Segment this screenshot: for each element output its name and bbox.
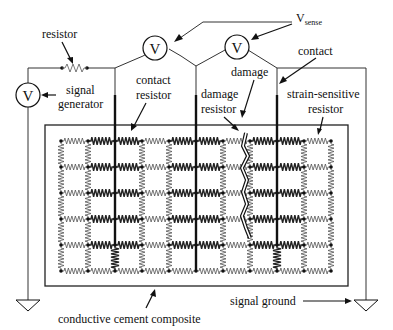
grid-node: [329, 139, 333, 143]
horizontal-resistor: [61, 164, 88, 170]
horizontal-resistor: [304, 268, 331, 274]
label-contact: contact: [298, 44, 333, 58]
grid-node: [140, 269, 144, 273]
grid-node: [302, 165, 306, 169]
horizontal-resistor: [304, 190, 331, 196]
contact-resistor: [115, 241, 142, 249]
grid-node: [59, 269, 63, 273]
vertical-resistor: [301, 141, 307, 167]
vertical-resistor: [328, 219, 334, 245]
vertical-resistor: [166, 167, 172, 193]
vertical-resistor: [301, 167, 307, 193]
contact-resistor: [277, 215, 304, 223]
label-ground: signal ground: [230, 294, 296, 308]
horizontal-resistor: [142, 190, 169, 196]
horizontal-resistor: [223, 242, 250, 248]
contact-resistor-vertical: [273, 245, 281, 271]
arrowhead-damage: [240, 110, 246, 118]
grid-node: [86, 191, 90, 195]
arrowhead-signal: [41, 92, 48, 98]
horizontal-resistor: [304, 138, 331, 144]
grid-node: [167, 139, 171, 143]
vsense-2-symbol: V: [232, 40, 243, 56]
ground-left-icon: [16, 300, 40, 311]
vertical-resistor: [220, 167, 226, 193]
vertical-resistor: [166, 193, 172, 219]
horizontal-resistor: [61, 138, 88, 144]
label-resistor: resistor: [42, 27, 77, 41]
grid-node: [302, 243, 306, 247]
contact-resistor: [169, 137, 196, 145]
horizontal-resistor: [88, 268, 115, 274]
grid-node: [167, 269, 171, 273]
vsense-pointer-2: [256, 24, 292, 37]
grid-node: [302, 139, 306, 143]
vsense-main: V: [296, 11, 305, 25]
contact-resistor: [196, 241, 223, 249]
vertical-resistor: [328, 245, 334, 271]
grid-node: [113, 269, 117, 273]
arrowhead-contact-resistor: [131, 123, 137, 131]
arrowhead-ground: [345, 298, 352, 304]
label-damage-resistor-2: resistor: [201, 102, 236, 116]
vertical-resistor: [301, 193, 307, 219]
horizontal-resistor: [304, 216, 331, 222]
horizontal-resistor: [196, 268, 223, 274]
vertical-resistor: [85, 219, 91, 245]
vertical-resistor: [139, 219, 145, 245]
grid-node: [167, 243, 171, 247]
grid-node: [329, 217, 333, 221]
grid-node: [302, 217, 306, 221]
vertical-resistor: [58, 245, 64, 271]
grid-node: [86, 243, 90, 247]
contact-resistor: [250, 163, 277, 171]
vsense-1-symbol: V: [150, 41, 161, 57]
horizontal-resistor: [61, 242, 88, 248]
grid-node: [167, 191, 171, 195]
contact-resistor: [250, 189, 277, 197]
grid-node: [167, 217, 171, 221]
grid-node: [86, 165, 90, 169]
vertical-resistor: [85, 141, 91, 167]
label-composite: conductive cement composite: [58, 312, 201, 326]
contact-resistor: [196, 215, 223, 223]
grid-node: [329, 269, 333, 273]
horizontal-resistor: [142, 164, 169, 170]
grid-node: [59, 139, 63, 143]
grid-node: [86, 217, 90, 221]
contact-resistor: [196, 137, 223, 145]
contact-resistor: [250, 215, 277, 223]
contact-resistor: [277, 163, 304, 171]
horizontal-resistor: [142, 268, 169, 274]
horizontal-resistor: [61, 268, 88, 274]
horizontal-resistor: [250, 268, 277, 274]
contact-resistor: [88, 241, 115, 249]
grid-node: [59, 217, 63, 221]
vertical-resistor: [85, 167, 91, 193]
horizontal-resistor: [223, 216, 250, 222]
contact-resistor: [277, 137, 304, 145]
grid-node: [248, 191, 252, 195]
grid-node: [302, 269, 306, 273]
circuit-diagram: V V V resistor signal generator contact …: [0, 0, 393, 330]
vertical-resistor: [220, 193, 226, 219]
vertical-resistor: [139, 245, 145, 271]
horizontal-resistor: [169, 268, 196, 274]
vsense-arrowhead-1: [174, 34, 183, 42]
label-vsense: Vsense: [296, 11, 322, 27]
contact-resistor: [169, 189, 196, 197]
vsense-sub: sense: [305, 18, 323, 27]
grid-node: [248, 269, 252, 273]
vertical-resistor: [85, 245, 91, 271]
vertical-resistor: [220, 219, 226, 245]
grid-node: [59, 165, 63, 169]
vertical-resistor: [166, 245, 172, 271]
label-contact-resistor-2: resistor: [136, 88, 171, 102]
horizontal-resistor: [223, 268, 250, 274]
vertical-resistor: [58, 141, 64, 167]
contact-resistor: [169, 215, 196, 223]
label-contact-resistor-1: contact: [136, 73, 171, 87]
vertical-resistor: [328, 193, 334, 219]
contact-resistor: [115, 215, 142, 223]
contact-resistor: [88, 163, 115, 171]
